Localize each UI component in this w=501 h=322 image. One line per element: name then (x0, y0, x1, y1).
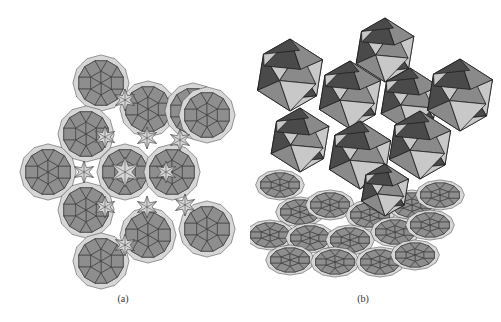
panel-b-polyhedra: (b) (250, 0, 501, 322)
tiling-2d-figure (0, 0, 250, 322)
polyhedra-3d-figure (250, 0, 501, 322)
panel-a-tiling: (a) (0, 0, 250, 322)
caption-b: (b) (343, 293, 383, 304)
caption-a: (a) (103, 293, 143, 304)
